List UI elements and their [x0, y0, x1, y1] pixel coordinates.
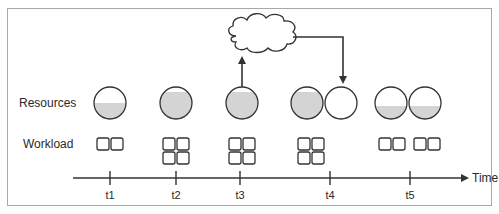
- workload-t5: [379, 138, 440, 150]
- workload-unit: [97, 138, 109, 150]
- tick-label-t4: t4: [325, 189, 334, 201]
- tick-label-t1: t1: [105, 189, 114, 201]
- workload-unit: [243, 138, 255, 150]
- workload-t3: [229, 138, 255, 164]
- resource-circle: [94, 87, 126, 119]
- workload-unit: [312, 138, 324, 150]
- workload-t2: [163, 138, 189, 164]
- resource-circle: [409, 87, 441, 119]
- workload-unit: [393, 138, 405, 150]
- cloud-icon: [229, 14, 296, 53]
- workload-unit: [229, 138, 241, 150]
- workload-unit: [163, 138, 175, 150]
- elasticity-diagram: Resources Workload: [0, 0, 499, 214]
- workload-unit: [298, 152, 310, 164]
- time-axis-label: Time: [472, 171, 499, 185]
- resource-circle: [160, 87, 192, 119]
- provision-arrow: [293, 37, 343, 82]
- workload-t4: [298, 138, 324, 164]
- workload-unit: [111, 138, 123, 150]
- tick-label-t5: t5: [405, 189, 414, 201]
- workload-unit: [243, 152, 255, 164]
- resource-circle: [375, 87, 407, 119]
- tick-label-t3: t3: [235, 189, 244, 201]
- resource-circle: [226, 87, 258, 119]
- workload-unit: [414, 138, 426, 150]
- workload-unit: [379, 138, 391, 150]
- workload-unit: [298, 138, 310, 150]
- new-resource-circle: [325, 87, 357, 119]
- tick-label-t2: t2: [171, 189, 180, 201]
- workload-unit: [312, 152, 324, 164]
- workload-unit: [163, 152, 175, 164]
- resource-circle: [291, 87, 323, 119]
- workload-unit: [229, 152, 241, 164]
- workload-unit: [177, 152, 189, 164]
- workload-row-label: Workload: [23, 137, 73, 151]
- resources-row-label: Resources: [19, 96, 76, 110]
- workload-unit: [177, 138, 189, 150]
- workload-unit: [428, 138, 440, 150]
- workload-t1: [97, 138, 123, 150]
